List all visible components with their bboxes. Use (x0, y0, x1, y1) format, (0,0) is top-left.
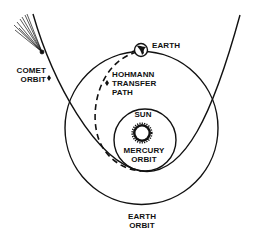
earth-orbit-label-line2: ORBIT (122, 221, 162, 230)
earth-orbit-label: EARTH ORBIT (122, 212, 162, 230)
hohmann-label: HOHMANN TRANSFER PATH (112, 70, 156, 97)
comet-label-line2: ORBIT (14, 75, 46, 84)
sun-icon (132, 123, 152, 143)
hohmann-label-line1: HOHMANN (112, 70, 156, 79)
sun-label: SUN (130, 110, 156, 119)
earth-orbit-label-line1: EARTH (122, 212, 162, 221)
hohmann-label-line2: TRANSFER (112, 79, 156, 88)
hohmann-label-line3: PATH (112, 88, 156, 97)
mercury-orbit-label: MERCURY ORBIT (121, 146, 167, 164)
comet-label-line1: COMET (14, 66, 46, 75)
comet-orbit-label: COMET ORBIT (14, 66, 46, 84)
comet-direction-arrow-icon (47, 75, 51, 81)
earth-label: EARTH (152, 41, 180, 50)
orbit-diagram (0, 0, 257, 239)
hohmann-direction-arrow-icon (105, 80, 109, 86)
mercury-label-line1: MERCURY (121, 146, 167, 155)
mercury-label-line2: ORBIT (121, 155, 167, 164)
earth-icon (132, 44, 148, 57)
